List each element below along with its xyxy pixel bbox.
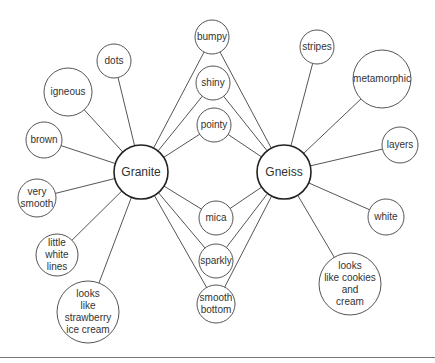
label-little-white-lines: little white lines: [45, 237, 68, 273]
label-igneous: igneous: [50, 86, 85, 98]
label-stripes: stripes: [302, 41, 331, 53]
label-dots: dots: [105, 55, 124, 67]
label-mica: mica: [205, 212, 226, 224]
label-layers: layers: [387, 139, 414, 151]
label-granite: Granite: [121, 166, 160, 178]
label-white: white: [374, 211, 397, 223]
label-sparkly: sparkly: [200, 255, 232, 267]
label-strawberry: looks like strawberry ice cream: [65, 288, 112, 336]
label-smooth-bottom: smooth bottom: [200, 292, 233, 316]
label-gneiss: Gneiss: [265, 166, 302, 178]
label-very-smooth: very smooth: [21, 186, 54, 210]
label-bumpy: bumpy: [197, 31, 227, 43]
label-shiny: shiny: [201, 77, 224, 89]
label-cookies-cream: looks like cookies and cream: [324, 260, 376, 308]
label-pointy: pointy: [201, 119, 228, 131]
bottom-divider: [0, 357, 435, 358]
label-metamorphic: metamorphic: [353, 73, 411, 85]
label-brown: brown: [30, 134, 57, 146]
